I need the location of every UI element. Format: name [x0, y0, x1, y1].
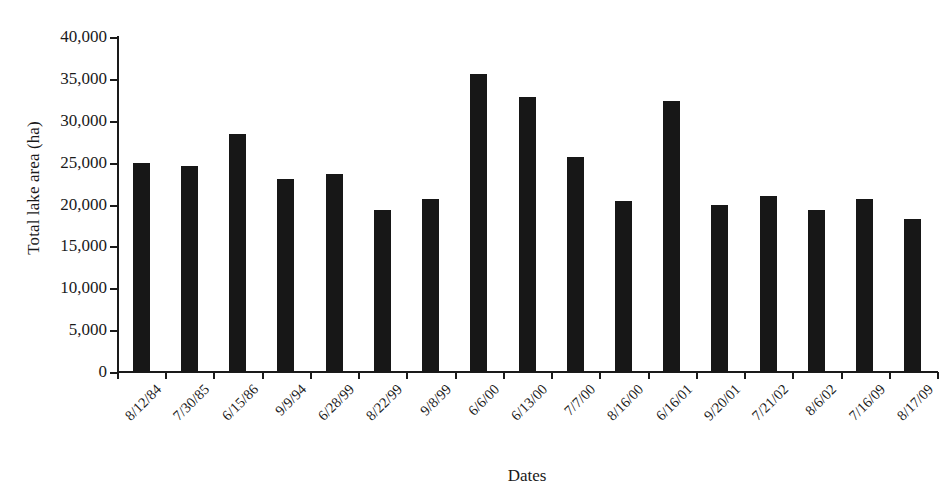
- bar: [374, 210, 391, 372]
- x-tick-label-text: 9/20/01: [701, 381, 744, 424]
- y-tick-label: 40,000: [60, 27, 107, 47]
- x-tick-label-text: 7/7/00: [561, 381, 599, 419]
- x-tick-label-text: 6/6/00: [465, 381, 503, 419]
- y-tick-mark: [110, 288, 117, 290]
- bar: [711, 205, 728, 372]
- x-tick-mark: [117, 372, 119, 379]
- y-tick-label: 15,000: [60, 236, 107, 256]
- bar: [615, 201, 632, 372]
- bar: [470, 74, 487, 372]
- bar: [567, 157, 584, 372]
- bar: [422, 199, 439, 372]
- bar: [181, 166, 198, 372]
- x-tick-label-text: 6/28/99: [315, 381, 358, 424]
- y-tick-label: 35,000: [60, 69, 107, 89]
- y-tick-mark: [110, 205, 117, 207]
- bar: [808, 210, 825, 372]
- x-axis-title: Dates: [117, 466, 937, 486]
- x-tick-label-text: 9/9/94: [272, 381, 310, 419]
- y-tick-label: 25,000: [60, 153, 107, 173]
- y-tick-mark: [110, 330, 117, 332]
- y-tick-label: 10,000: [60, 278, 107, 298]
- bar: [277, 179, 294, 372]
- bar-chart-figure: Total lake area (ha) 05,00010,00015,0002…: [0, 0, 949, 499]
- x-tick-label-text: 8/17/09: [894, 381, 937, 424]
- y-tick-label: 5,000: [69, 320, 107, 340]
- y-axis-title: Total lake area (ha): [14, 0, 54, 388]
- bar: [326, 174, 343, 372]
- bar: [229, 134, 246, 372]
- bar: [856, 199, 873, 372]
- x-tick-label-text: 9/8/99: [416, 381, 454, 419]
- x-tick-label-text: 8/12/84: [122, 381, 165, 424]
- x-tick-label-text: 6/15/86: [218, 381, 261, 424]
- x-tick-label-text: 7/16/09: [845, 381, 888, 424]
- x-tick-label-text: 7/21/02: [749, 381, 792, 424]
- bar: [904, 219, 921, 372]
- x-tick-label-text: 6/16/01: [652, 381, 695, 424]
- x-tick-label-text: 7/30/85: [170, 381, 213, 424]
- x-tick-label-text: 8/16/00: [604, 381, 647, 424]
- y-tick-mark: [110, 163, 117, 165]
- y-tick-label: 0: [99, 362, 108, 382]
- y-tick-label: 30,000: [60, 111, 107, 131]
- bar: [663, 101, 680, 372]
- y-tick-mark: [110, 37, 117, 39]
- bar: [133, 163, 150, 372]
- bar: [760, 196, 777, 372]
- x-tick-label-text: 8/6/02: [802, 381, 840, 419]
- y-tick-label: 20,000: [60, 195, 107, 215]
- y-tick-mark: [110, 246, 117, 248]
- bar: [519, 97, 536, 372]
- x-tick-label-text: 6/13/00: [508, 381, 551, 424]
- x-tick-label-text: 8/22/99: [363, 381, 406, 424]
- y-tick-mark: [110, 372, 117, 374]
- y-tick-mark: [110, 79, 117, 81]
- plot-area: 05,00010,00015,00020,00025,00030,00035,0…: [117, 37, 937, 372]
- y-tick-mark: [110, 121, 117, 123]
